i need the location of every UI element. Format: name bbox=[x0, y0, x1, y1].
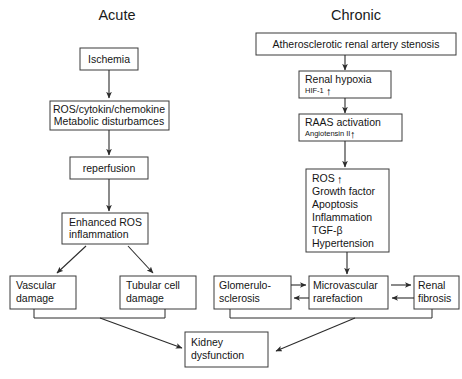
node-glomerulosclerosis-line1: Glomerulo- bbox=[219, 279, 271, 291]
node-vascular-damage-line2: damage bbox=[16, 292, 54, 304]
arrow-enhanced-ros-to-vascular bbox=[57, 246, 86, 273]
node-kidney-dysfunction-line2: dysfunction bbox=[191, 349, 244, 361]
up-arrow-icon-ros: ↑ bbox=[337, 173, 343, 185]
flowchart-diagram: Acute Chronic Ischemia ROS/cytokin/chemo… bbox=[0, 0, 462, 379]
node-chronic-ros-item-0: Growth factor bbox=[312, 185, 376, 197]
node-renal-fibrosis-line2: fibrosis bbox=[418, 292, 451, 304]
node-kidney-dysfunction[interactable]: Kidney dysfunction bbox=[185, 332, 268, 367]
node-vascular-damage[interactable]: Vascular damage bbox=[10, 276, 76, 309]
node-stenosis-label: Atherosclerotic renal artery stenosis bbox=[273, 38, 440, 50]
node-reperfusion[interactable]: reperfusion bbox=[70, 157, 148, 179]
node-reperfusion-label: reperfusion bbox=[83, 162, 136, 174]
node-vascular-damage-line1: Vascular bbox=[16, 279, 57, 291]
node-microvascular-rarefaction[interactable]: Microvascular rarefaction bbox=[309, 276, 388, 309]
node-chronic-ros[interactable]: ROS ↑ Growth factor Apoptosis Inflammati… bbox=[306, 169, 389, 252]
arrow-acute-to-kidney-dysfunction bbox=[100, 318, 182, 348]
node-chronic-ros-item-2: Inflammation bbox=[312, 211, 372, 223]
column-heading-chronic: Chronic bbox=[331, 7, 381, 23]
bracket-chronic-outcomes bbox=[230, 309, 432, 318]
node-chronic-ros-item-1: Apoptosis bbox=[312, 198, 358, 210]
node-ros-cytokine[interactable]: ROS/cytokin/chemokine Metabolic disturba… bbox=[50, 101, 169, 130]
node-renal-hypoxia-line2: HIF-1 bbox=[305, 86, 324, 95]
up-arrow-icon-angiotensin: ↑ bbox=[350, 128, 356, 140]
node-renal-hypoxia[interactable]: Renal hypoxia HIF-1 ↑ bbox=[299, 71, 391, 98]
node-chronic-ros-line1: ROS bbox=[312, 172, 335, 184]
node-ischemia[interactable]: Ischemia bbox=[80, 48, 138, 70]
node-microvascular-line2: rarefaction bbox=[313, 292, 363, 304]
node-ischemia-label: Ischemia bbox=[88, 53, 130, 65]
node-renal-fibrosis-line1: Renal bbox=[418, 279, 445, 291]
column-heading-acute: Acute bbox=[98, 7, 135, 23]
node-renal-hypoxia-line1: Renal hypoxia bbox=[305, 73, 372, 85]
up-arrow-icon-hif1: ↑ bbox=[326, 85, 332, 97]
node-ros-cytokine-line2: Metabolic disturbamces bbox=[54, 115, 164, 127]
node-renal-fibrosis[interactable]: Renal fibrosis bbox=[414, 276, 459, 309]
node-enhanced-ros[interactable]: Enhanced ROS inflammation bbox=[62, 213, 148, 244]
node-stenosis[interactable]: Atherosclerotic renal artery stenosis bbox=[256, 33, 456, 55]
node-microvascular-line1: Microvascular bbox=[313, 279, 378, 291]
node-raas[interactable]: RAAS activation Angiotensin II ↑ bbox=[299, 114, 402, 141]
node-raas-line2: Angiotensin II bbox=[305, 129, 350, 138]
arrow-enhanced-ros-to-tubular bbox=[128, 246, 153, 273]
node-enhanced-ros-line2: inflammation bbox=[69, 228, 129, 240]
arrow-chronic-to-kidney-dysfunction bbox=[276, 318, 355, 351]
node-enhanced-ros-line1: Enhanced ROS bbox=[69, 216, 142, 228]
node-glomerulosclerosis[interactable]: Glomerulo- sclerosis bbox=[214, 276, 291, 309]
node-tubular-damage-line1: Tubular cell bbox=[126, 279, 180, 291]
node-tubular-damage-line2: damage bbox=[126, 292, 164, 304]
node-tubular-damage[interactable]: Tubular cell damage bbox=[120, 276, 196, 309]
bracket-acute-damage bbox=[34, 309, 165, 318]
node-kidney-dysfunction-line1: Kidney bbox=[191, 336, 224, 348]
node-ros-cytokine-line1: ROS/cytokin/chemokine bbox=[53, 103, 165, 115]
node-chronic-ros-item-4: Hypertension bbox=[312, 237, 374, 249]
node-chronic-ros-item-3: TGF-β bbox=[312, 224, 343, 236]
node-glomerulosclerosis-line2: sclerosis bbox=[219, 292, 260, 304]
node-raas-line1: RAAS activation bbox=[305, 116, 381, 128]
